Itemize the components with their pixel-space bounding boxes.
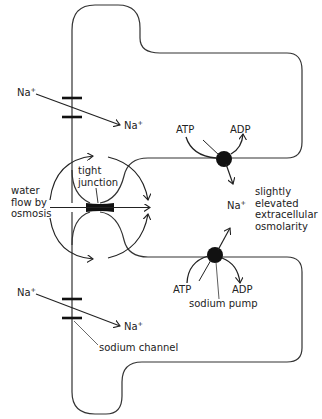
upper-sodium-pump-circle [216,151,232,167]
lower-cell-junction-curve [72,212,90,245]
lower-cell-membrane [72,212,302,414]
upper-pump-na-out-arrow [226,164,233,184]
sodium-pump-label: sodium pump [189,298,258,310]
lower-pump-atp-line [199,260,211,281]
na-upper-outside-label: Na+ [17,87,36,99]
na-upper-inside-label: Na+ [124,120,143,132]
atp-lower-label: ATP [173,284,191,296]
lower-adp-arrow [222,258,240,283]
sodium-pump-pointer [216,262,219,299]
upper-pump-na-in-line [203,140,220,156]
na-lower-inside-label: Na+ [124,321,143,333]
lower-atp-arrow [187,256,208,283]
lower-pump-na-out-arrow [218,228,230,250]
adp-upper-label: ADP [230,124,251,136]
water-flow-lower-right-arrow [108,214,148,258]
tight-junction-pointer [96,188,98,203]
na-lower-outside-label: Na+ [17,287,36,299]
atp-upper-label: ATP [176,124,194,136]
adp-lower-label: ADP [232,284,253,296]
lower-sodium-pump-circle [207,247,223,263]
na-extracellular-label: Na+ [227,200,246,212]
sodium-channel-label: sodium channel [99,342,178,354]
upper-adp-arrow [231,134,243,154]
sodium-channel-pointer [74,321,98,345]
tight-junction-label: tight junction [78,165,122,188]
water-flow-label: water flow by osmosis [11,185,53,220]
osmolarity-label: slightly elevated extracellular osmolari… [255,186,317,232]
